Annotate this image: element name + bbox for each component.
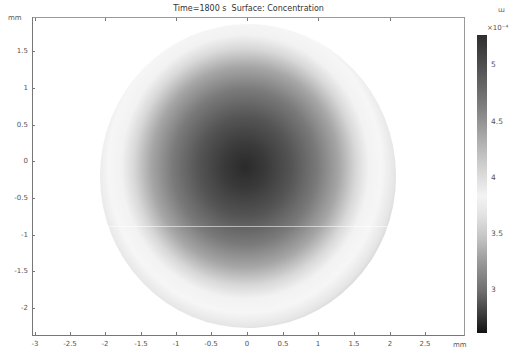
y-tick-label: 0.5	[0, 121, 28, 129]
y-tick-label: -1.5	[0, 267, 28, 275]
y-tick	[32, 271, 35, 272]
y-tick-label: 1.5	[0, 47, 28, 55]
colorbar-tick-label: 3.5	[491, 229, 503, 238]
x-tick-label: 2.5	[419, 340, 430, 348]
y-tick	[32, 161, 35, 162]
x-tick	[390, 332, 391, 335]
x-tick-label: -2.5	[63, 340, 77, 348]
x-tick	[35, 332, 36, 335]
x-tick	[141, 332, 142, 335]
x-tick-label: 2	[388, 340, 392, 348]
colorbar-tick-label: 5	[491, 60, 496, 69]
y-tick-label: 0	[0, 157, 28, 165]
x-tick-top	[318, 18, 319, 21]
y-axis-unit: mm	[8, 14, 22, 22]
x-tick	[283, 332, 284, 335]
x-tick-top	[176, 18, 177, 21]
x-tick	[70, 332, 71, 335]
x-tick	[211, 332, 212, 335]
x-tick-top	[390, 18, 391, 21]
y-tick-label: -1	[0, 231, 28, 239]
x-tick	[247, 332, 248, 335]
x-tick-label: -1	[173, 340, 180, 348]
x-tick-label: -1.5	[134, 340, 148, 348]
colorbar-exponent: ×10⁻⁴	[487, 24, 508, 32]
colorbar-settings-icon[interactable]: ɯ	[498, 6, 505, 14]
render-artifact-line	[100, 226, 396, 227]
y-tick	[32, 51, 35, 52]
x-tick-label: -2	[102, 340, 109, 348]
x-tick-top	[247, 18, 248, 21]
y-tick	[32, 235, 35, 236]
y-tick	[32, 308, 35, 309]
y-tick-label: -0.5	[0, 194, 28, 202]
x-tick-top	[35, 18, 36, 21]
colorbar-tick-label: 3	[491, 285, 496, 294]
y-tick	[32, 198, 35, 199]
x-tick-label: 0.5	[277, 340, 288, 348]
colorbar	[477, 35, 487, 333]
x-tick-top	[105, 18, 106, 21]
x-axis-unit: mm	[453, 341, 467, 349]
y-tick	[32, 125, 35, 126]
x-tick-label: 1.5	[348, 340, 359, 348]
x-tick-label: 0	[245, 340, 249, 348]
x-tick	[105, 332, 106, 335]
colorbar-tick-label: 4	[491, 173, 496, 182]
y-tick-label: -2	[0, 304, 28, 312]
colorbar-tick-label: 4.5	[491, 117, 503, 126]
x-tick	[176, 332, 177, 335]
x-tick	[318, 332, 319, 335]
plot-title: Time=1800 s Surface: Concentration	[0, 4, 497, 13]
x-tick-label: -3	[32, 340, 39, 348]
x-tick	[354, 332, 355, 335]
concentration-surface	[100, 24, 396, 328]
x-tick-label: -0.5	[204, 340, 218, 348]
x-tick-label: 1	[316, 340, 320, 348]
y-tick	[32, 88, 35, 89]
x-tick	[425, 332, 426, 335]
y-tick-label: 1	[0, 84, 28, 92]
